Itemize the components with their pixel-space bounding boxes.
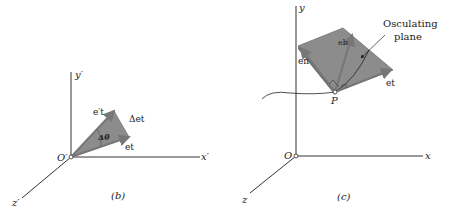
x-prime-label: x′ [201, 151, 210, 162]
origin-o [294, 154, 298, 158]
point-p [333, 90, 337, 94]
origin-o-prime [69, 155, 73, 159]
et-prime-label: e′t [93, 107, 104, 117]
origin-label: O′ [57, 152, 68, 163]
en-label: en [298, 56, 309, 66]
z-axis [250, 156, 296, 193]
z-label: z [241, 194, 248, 205]
et-label-c: et [386, 78, 395, 88]
osculating-label: Osculating [383, 18, 438, 29]
angle-label: Δθ [97, 132, 110, 142]
origin-label-c: O [284, 150, 292, 161]
eb-label: eb [338, 38, 348, 47]
y-prime-label: y′ [74, 69, 84, 80]
panel-b: y′ x′ z′ O′ e′t Δet et Δθ (b) [11, 69, 210, 208]
z-prime-label: z′ [11, 197, 20, 208]
plane-label: plane [394, 31, 422, 42]
z-prime-axis [22, 157, 71, 198]
delta-et-label: Δet [129, 114, 145, 124]
x-label: x [425, 150, 431, 161]
caption-c: (c) [337, 191, 351, 202]
y-label: y [298, 2, 305, 13]
diagram: y′ x′ z′ O′ e′t Δet et Δθ (b) y x z O P … [0, 0, 449, 212]
point-p-label: P [330, 95, 338, 106]
panel-c: y x z O P en et eb Osculating plane (c) [241, 2, 438, 205]
caption-b: (b) [111, 190, 125, 201]
et-label: et [125, 142, 134, 152]
